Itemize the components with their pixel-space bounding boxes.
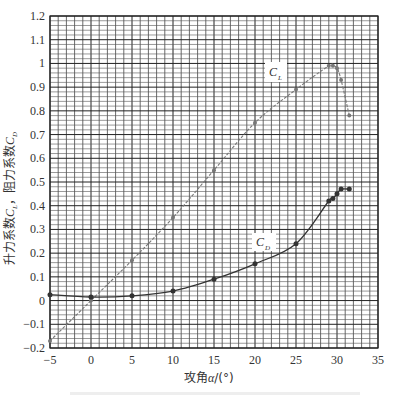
figure-caption xyxy=(70,392,360,395)
svg-text:C: C xyxy=(269,65,278,79)
y-axis-label: 升力系数CL，阻力系数CD xyxy=(2,132,19,265)
x-axis-label: 攻角α/(°) xyxy=(184,371,234,385)
y-tick-label: 1.1 xyxy=(30,33,45,47)
y-tick-label: 0.4 xyxy=(30,199,45,213)
cl-series-label: C L xyxy=(265,62,287,82)
x-tick-label: 25 xyxy=(290,353,302,367)
x-tick-label: 30 xyxy=(331,353,343,367)
data-point xyxy=(347,187,352,192)
y-tick-label: 0.3 xyxy=(30,222,45,236)
y-tick-label: 0.6 xyxy=(30,151,45,165)
y-tick-label: 1 xyxy=(39,56,45,70)
data-point xyxy=(347,114,351,118)
x-tick-label: 35 xyxy=(372,353,384,367)
x-tick-label: 10 xyxy=(167,353,179,367)
data-point xyxy=(171,289,176,294)
svg-text:L: L xyxy=(277,74,282,82)
x-tick-label: 5 xyxy=(129,353,135,367)
data-point xyxy=(253,261,258,266)
data-point xyxy=(89,295,94,300)
x-tick-label: 0 xyxy=(88,353,94,367)
data-point xyxy=(294,241,299,246)
svg-text:C: C xyxy=(256,235,265,249)
y-tick-label: 0 xyxy=(39,294,45,308)
y-tick-label: 0.2 xyxy=(30,246,45,260)
data-point xyxy=(130,258,134,262)
data-point xyxy=(253,121,257,125)
data-point xyxy=(130,293,135,298)
data-point xyxy=(327,64,331,68)
y-tick-label: −0.1 xyxy=(23,317,45,331)
data-point xyxy=(212,277,217,282)
data-point xyxy=(294,88,298,92)
data-point xyxy=(48,339,52,343)
y-axis-ticks: −0.2−0.100.10.20.30.40.50.60.70.80.911.1… xyxy=(23,9,45,355)
svg-text:D: D xyxy=(264,244,270,252)
y-tick-label: −0.2 xyxy=(23,341,45,355)
y-tick-label: 0.9 xyxy=(30,80,45,94)
data-point xyxy=(335,191,340,196)
y-tick-label: 0.5 xyxy=(30,175,45,189)
y-tick-label: 0.1 xyxy=(30,270,45,284)
y-tick-label: 1.2 xyxy=(30,9,45,23)
y-tick-label: 0.8 xyxy=(30,104,45,118)
x-axis-ticks: −505101520253035 xyxy=(44,353,384,367)
data-point xyxy=(330,196,335,201)
x-tick-label: 20 xyxy=(249,353,261,367)
data-point xyxy=(339,78,343,82)
x-tick-label: 15 xyxy=(208,353,220,367)
x-tick-label: −5 xyxy=(44,353,57,367)
data-point xyxy=(335,66,339,70)
data-point xyxy=(48,292,53,297)
data-point xyxy=(212,168,216,172)
cd-series-label: C D xyxy=(252,233,276,252)
data-point xyxy=(331,64,335,68)
data-point xyxy=(171,216,175,220)
lift-drag-chart: −0.2−0.100.10.20.30.40.50.60.70.80.911.1… xyxy=(0,0,394,398)
y-tick-label: 0.7 xyxy=(30,128,45,142)
data-point xyxy=(339,187,344,192)
